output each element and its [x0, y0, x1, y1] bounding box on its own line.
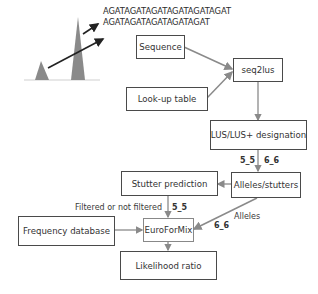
sequence-box: Sequence [136, 35, 185, 59]
label-5-5-lower: 5_5 [172, 203, 187, 212]
sequence-6-repeats: AGATAGATAGATAGATAGATAGAT [103, 6, 231, 16]
label-filtered: Filtered or not filtered [75, 203, 162, 212]
label-alleles: Alleles [234, 212, 260, 221]
frequency-database-box: Frequency database [18, 216, 115, 246]
label-6-6-upper: 6_6 [264, 156, 279, 165]
euroformix-box: EuroForMix [143, 218, 194, 242]
likelihood-ratio-box: Likelihood ratio [120, 251, 217, 280]
lus-designation-box: LUS/LUS+ designation [210, 120, 307, 150]
label-6-6-lower: 6_6 [214, 221, 229, 230]
label-5-5-upper: 5_5 [240, 156, 255, 165]
seq2lus-box: seq2lus [233, 58, 283, 82]
sequence-5-repeats: AGATAGATAGATAGATAGAT [103, 17, 210, 27]
alleles-stutters-box: Alleles/stutters [231, 172, 301, 198]
stutter-prediction-box: Stutter prediction [121, 171, 218, 196]
lookup-table-box: Look-up table [126, 87, 208, 111]
electropherogram-icon [24, 17, 103, 80]
